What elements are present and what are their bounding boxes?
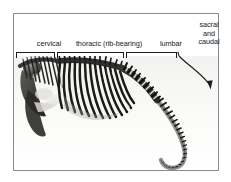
sacral-caudal-arrow — [171, 48, 219, 94]
figure-container: cervical thoracic (rib-bearing) lumbar s… — [0, 0, 231, 182]
label-cervical: cervical — [29, 40, 69, 49]
thoracic-bracket — [57, 52, 124, 58]
label-sacral-line3: caudal — [189, 38, 229, 47]
cervical-bracket — [16, 52, 55, 58]
label-sacral-and-caudal: sacral and caudal — [189, 21, 229, 47]
region-labels: cervical thoracic (rib-bearing) lumbar s… — [13, 13, 219, 50]
lumbar-bracket — [126, 52, 177, 58]
label-thoracic: thoracic (rib-bearing) — [68, 40, 150, 49]
